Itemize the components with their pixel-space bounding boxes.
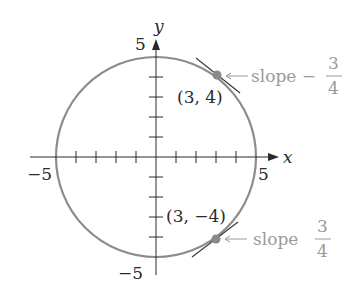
x-axis-label: x [283,147,293,167]
point-upper [213,71,222,80]
point-upper-label: (3, 4) [177,87,223,107]
slope-upper-text: slope − [251,66,316,86]
x-axis-arrow-icon [268,153,279,161]
slope-upper-den: 4 [328,78,339,98]
y-axis-label: y [153,16,164,36]
x-max-label: 5 [258,164,269,184]
diagram-canvas: y x 5 −5 5 −5 (3, 4) slope − 3 4 (3, −4)… [0,0,355,296]
x-min-label: −5 [27,164,52,184]
y-min-label: −5 [118,263,143,283]
y-axis-arrow-icon [152,39,160,50]
slope-lower-den: 4 [317,241,328,261]
slope-upper-num: 3 [328,53,339,73]
slope-lower-text: slope [253,229,298,249]
point-lower-label: (3, −4) [166,206,226,226]
slope-lower-num: 3 [317,216,328,236]
point-lower [212,235,221,244]
y-max-label: 5 [135,34,146,54]
